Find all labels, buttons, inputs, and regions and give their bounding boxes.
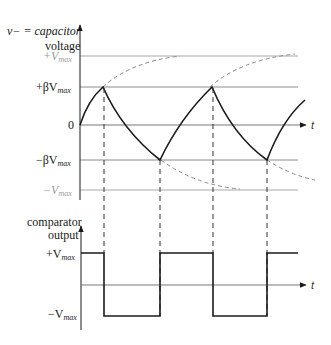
relaxation-oscillator-diagram: v− = capacitor voltage t +Vmax +βVmax 0 …: [0, 0, 331, 345]
label-neg-vmax: −Vmax: [43, 183, 72, 198]
bottom-time-label: t: [311, 279, 315, 291]
transition-markers: [104, 88, 267, 316]
top-ylabel-line1-text: v− = capacitor: [7, 24, 81, 38]
bottom-ylabel-line2: output: [48, 228, 79, 242]
dashed-discharge-curve-1: [161, 160, 240, 189]
top-time-label: t: [311, 119, 315, 131]
capacitor-voltage-waveform: [80, 87, 305, 160]
top-plot: v− = capacitor voltage t +Vmax +βVmax 0 …: [7, 24, 315, 200]
dashed-charge-curve-1: [103, 56, 180, 87]
label-comparator-neg-vmax: −Vmax: [48, 307, 77, 322]
bottom-plot: comparator output t +Vmax −Vmax: [27, 215, 315, 330]
label-pos-beta-vmax: +βVmax: [36, 80, 71, 95]
dashed-discharge-curve-2: [267, 160, 315, 180]
bottom-ylabel-line1: comparator: [27, 215, 82, 229]
label-zero: 0: [68, 118, 74, 132]
label-neg-beta-vmax: −βVmax: [36, 153, 71, 168]
top-ylabel-line1: v− = capacitor: [7, 24, 81, 38]
label-comparator-pos-vmax: +Vmax: [46, 247, 75, 262]
dashed-charge-curve-2: [210, 54, 295, 87]
